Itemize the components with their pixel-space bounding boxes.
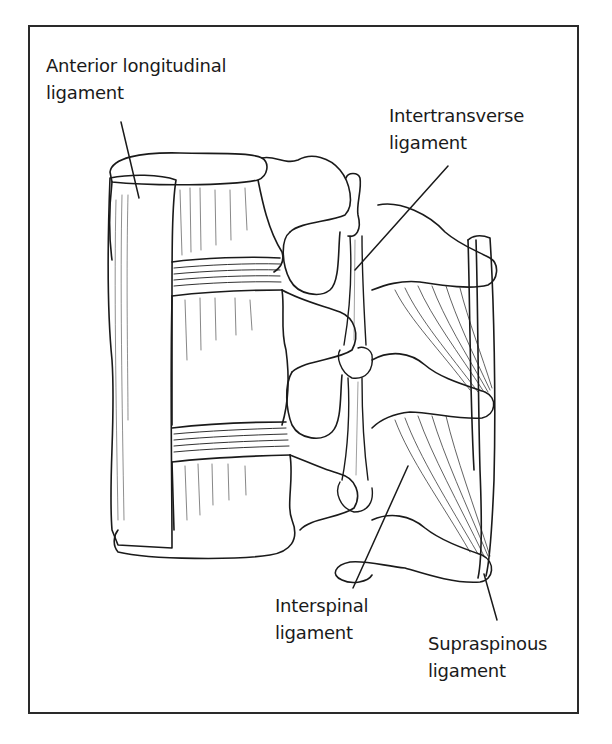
label-anterior-longitudinal-ligament: Anterior longitudinal ligament bbox=[46, 52, 226, 106]
anterior-longitudinal-ligament-strip bbox=[108, 175, 176, 548]
label-line: ligament bbox=[275, 619, 368, 646]
label-line: ligament bbox=[46, 79, 226, 106]
label-line: Intertransverse bbox=[389, 102, 524, 129]
leader-anterior-longitudinal bbox=[121, 122, 139, 198]
vertebral-bodies bbox=[110, 153, 295, 559]
leader-interspinal bbox=[353, 466, 408, 588]
label-line: Interspinal bbox=[275, 592, 368, 619]
leader-intertransverse bbox=[355, 166, 448, 270]
label-line: Supraspinous bbox=[428, 630, 547, 657]
vertebral-arches bbox=[262, 156, 360, 530]
label-line: ligament bbox=[428, 657, 547, 684]
label-supraspinous-ligament: Supraspinous ligament bbox=[428, 630, 547, 684]
intertransverse-ligament-cords bbox=[338, 236, 373, 512]
leader-supraspinous bbox=[484, 574, 497, 620]
label-line: ligament bbox=[389, 129, 524, 156]
label-interspinal-ligament: Interspinal ligament bbox=[275, 592, 368, 646]
spinous-processes bbox=[335, 204, 496, 582]
label-line: Anterior longitudinal bbox=[46, 52, 226, 79]
label-intertransverse-ligament: Intertransverse ligament bbox=[389, 102, 524, 156]
leader-lines bbox=[121, 122, 497, 620]
